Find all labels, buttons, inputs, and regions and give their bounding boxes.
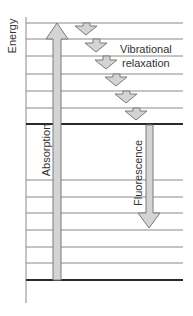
fluorescence-label: Fluorescence (132, 140, 144, 206)
vibrational-relaxation-label-line1: Vibrational (120, 43, 172, 55)
absorption-label: Absorption (40, 124, 52, 177)
vibrational-relaxation-label-line2: relaxation (122, 57, 170, 69)
vibrational-arrow-3 (95, 56, 117, 69)
energy-diagram: Energy Absorption Fluorescence Vibration… (0, 0, 193, 316)
ground-state-levels (26, 180, 183, 263)
energy-axis-label: Energy (6, 18, 18, 53)
vibrational-arrow-6 (125, 108, 147, 120)
vibrational-relaxation-arrows (75, 23, 147, 120)
vibrational-arrow-5 (115, 91, 137, 103)
vibrational-arrow-2 (85, 39, 107, 52)
vibrational-arrow-4 (105, 74, 127, 86)
vibrational-arrow-1 (75, 23, 97, 35)
